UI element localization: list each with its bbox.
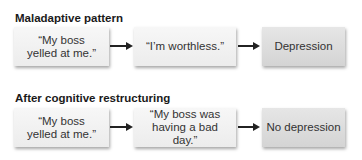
outcome-box: Depression <box>262 27 345 66</box>
restructuring-title: After cognitive restructuring <box>15 92 170 104</box>
event-box: “My boss yelled at me.” <box>14 27 109 66</box>
arrow-icon <box>238 126 258 128</box>
outcome-box: No depression <box>262 108 345 147</box>
maladaptive-pattern-title: Maladaptive pattern <box>15 12 123 24</box>
arrow-icon <box>110 126 131 128</box>
event-box: “My boss yelled at me.” <box>14 108 109 147</box>
belief-box: “I’m worthless.” <box>134 27 236 66</box>
belief-box: “My boss was having a bad day.” <box>134 108 236 147</box>
arrow-icon <box>238 45 258 47</box>
arrow-icon <box>110 45 131 47</box>
